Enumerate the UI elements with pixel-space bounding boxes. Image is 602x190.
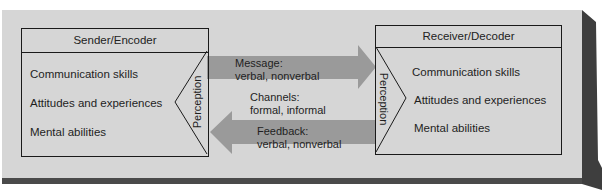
feedback-label: Feedback: verbal, nonverbal bbox=[257, 125, 341, 151]
receiver-title: Receiver/Decoder bbox=[376, 26, 561, 48]
channels-label: Channels: formal, informal bbox=[250, 91, 326, 117]
receiver-perception-label: Perception bbox=[378, 69, 390, 129]
sender-item: Attitudes and experiences bbox=[30, 97, 162, 109]
receiver-item: Attitudes and experiences bbox=[414, 94, 546, 106]
receiver-box: Receiver/Decoder bbox=[375, 25, 562, 155]
message-label: Message: verbal, nonverbal bbox=[235, 57, 319, 83]
sender-perception-label: Perception bbox=[191, 72, 203, 132]
sender-item: Communication skills bbox=[30, 68, 138, 80]
sender-item: Mental abilities bbox=[30, 126, 106, 138]
receiver-item: Mental abilities bbox=[414, 122, 490, 134]
sender-title: Sender/Encoder bbox=[22, 29, 208, 53]
receiver-item: Communication skills bbox=[412, 66, 520, 78]
